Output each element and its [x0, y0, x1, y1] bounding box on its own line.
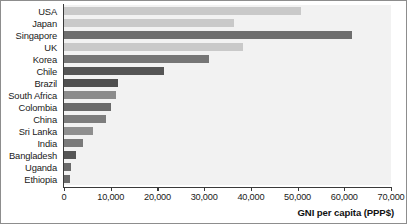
bar-row — [64, 29, 391, 41]
bar — [64, 67, 164, 75]
tick-mark — [298, 187, 299, 191]
bar — [64, 7, 301, 15]
tick-label: 30,000 — [191, 192, 218, 202]
category-label: Korea — [33, 54, 57, 65]
bar-row — [64, 89, 391, 101]
x-axis-title: GNI per capita (PPP$) — [297, 207, 394, 218]
category-label-row: Uganda — [1, 161, 60, 173]
plot-area — [64, 5, 391, 185]
bar — [64, 79, 118, 87]
category-label: Bangladesh — [9, 150, 57, 161]
category-label: Ethiopia — [24, 174, 57, 185]
category-label-row: China — [1, 113, 60, 125]
category-label: Japan — [32, 18, 57, 29]
category-label-row: Bangladesh — [1, 149, 60, 161]
bar-row — [64, 17, 391, 29]
bar-row — [64, 149, 391, 161]
category-label: UK — [44, 42, 57, 53]
category-label-row: Korea — [1, 53, 60, 65]
bar-row — [64, 137, 391, 149]
bar — [64, 115, 106, 123]
tick-label: 40,000 — [237, 192, 264, 202]
bar — [64, 127, 93, 135]
category-label-row: Sri Lanka — [1, 125, 60, 137]
category-label-row: Ethiopia — [1, 173, 60, 185]
bar — [64, 139, 83, 147]
bar — [64, 175, 70, 183]
bar-row — [64, 41, 391, 53]
category-label: South Africa — [8, 90, 57, 101]
bar-row — [64, 65, 391, 77]
bar-row — [64, 161, 391, 173]
tick-mark — [204, 187, 205, 191]
bar — [64, 151, 76, 159]
tick-label: 50,000 — [284, 192, 311, 202]
tick-mark — [391, 187, 392, 191]
bar — [64, 31, 352, 39]
tick-label: 70,000 — [378, 192, 405, 202]
tick-label: 60,000 — [331, 192, 358, 202]
bar — [64, 103, 111, 111]
tick-mark — [157, 187, 158, 191]
tick-mark — [344, 187, 345, 191]
tick-mark — [251, 187, 252, 191]
bar — [64, 19, 234, 27]
tick-label: 10,000 — [97, 192, 124, 202]
category-label-row: Colombia — [1, 101, 60, 113]
category-label: Uganda — [25, 162, 57, 173]
bar — [64, 163, 71, 171]
category-label-row: Chile — [1, 65, 60, 77]
category-label-row: Singapore — [1, 29, 60, 41]
tick-mark — [64, 187, 65, 191]
category-label-row: USA — [1, 5, 60, 17]
category-label: China — [33, 114, 57, 125]
bar — [64, 91, 116, 99]
y-axis-line — [63, 4, 64, 188]
category-label-row: India — [1, 137, 60, 149]
category-label: Colombia — [19, 102, 57, 113]
x-axis-line — [63, 187, 392, 188]
category-label: Chile — [36, 66, 57, 77]
category-label: Sri Lanka — [19, 126, 57, 137]
tick-label: 20,000 — [144, 192, 171, 202]
bar-row — [64, 125, 391, 137]
category-label: USA — [38, 6, 57, 17]
bar-row — [64, 113, 391, 125]
bar — [64, 55, 209, 63]
category-label-row: Japan — [1, 17, 60, 29]
category-labels: USAJapanSingaporeUKKoreaChileBrazilSouth… — [1, 5, 60, 185]
category-label-row: South Africa — [1, 89, 60, 101]
tick-label: 0 — [62, 192, 67, 202]
bar-row — [64, 173, 391, 185]
bar-row — [64, 5, 391, 17]
category-label: India — [37, 138, 57, 149]
category-label: Singapore — [16, 30, 57, 41]
bar-row — [64, 53, 391, 65]
tick-mark — [111, 187, 112, 191]
bar-row — [64, 101, 391, 113]
category-label-row: UK — [1, 41, 60, 53]
category-label: Brazil — [34, 78, 57, 89]
bar — [64, 43, 243, 51]
bars-container — [64, 5, 391, 185]
bar-row — [64, 77, 391, 89]
bar-chart: USAJapanSingaporeUKKoreaChileBrazilSouth… — [0, 0, 407, 224]
category-label-row: Brazil — [1, 77, 60, 89]
